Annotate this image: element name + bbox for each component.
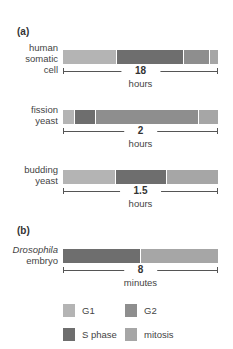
phase-segment-m — [199, 110, 218, 124]
duration-scale-budding-yeast: 1.5 — [63, 187, 218, 197]
phase-segment-s — [63, 249, 141, 263]
phase-segment-s — [116, 170, 167, 184]
organism-label-budding-yeast: budding yeast — [24, 164, 58, 186]
cycle-bar-human — [63, 50, 218, 64]
swatch-g2 — [125, 304, 137, 317]
phase-segment-g1 — [63, 110, 75, 124]
phase-segment-g1 — [63, 170, 116, 184]
duration-unit: hours — [63, 78, 218, 89]
duration-value: 8 — [124, 264, 158, 276]
phase-segment-g1 — [63, 50, 117, 64]
organism-label-fission-yeast: fission yeast — [31, 104, 58, 126]
phase-segment-s — [75, 110, 95, 124]
duration-scale-drosophila: 8 — [63, 266, 218, 276]
panel-b-label: (b) — [17, 225, 30, 236]
legend-item-g2: G2 — [125, 304, 157, 317]
duration-scale-human: 18 — [63, 67, 218, 77]
duration-value: 2 — [124, 125, 158, 137]
legend-item-mitosis: mitosis — [125, 328, 174, 341]
phase-segment-s — [117, 50, 184, 64]
cycle-bar-budding-yeast — [63, 170, 218, 184]
panel-a-label: (a) — [17, 26, 29, 37]
swatch-g1 — [63, 304, 75, 317]
phase-segment-g2 — [184, 50, 210, 64]
cycle-bar-fission-yeast — [63, 110, 218, 124]
duration-scale-fission-yeast: 2 — [63, 127, 218, 137]
cycle-bar-drosophila — [63, 249, 218, 263]
duration-value: 18 — [121, 65, 160, 77]
duration-unit: hours — [63, 138, 218, 149]
phase-segment-g2 — [96, 110, 200, 124]
duration-unit: hours — [63, 198, 218, 209]
duration-unit: minutes — [63, 277, 218, 288]
swatch-mitosis — [125, 328, 137, 341]
legend-item-g1: G1 — [63, 304, 95, 317]
legend-item-s-phase: S phase — [63, 328, 117, 341]
duration-value: 1.5 — [120, 185, 162, 197]
swatch-s-phase — [63, 328, 75, 341]
organism-label-human: human somatic cell — [25, 42, 58, 75]
organism-label-drosophila: Drosophila embryo — [13, 244, 58, 266]
phase-segment-m — [210, 50, 218, 64]
phase-segment-m — [141, 249, 219, 263]
phase-segment-m — [167, 170, 218, 184]
